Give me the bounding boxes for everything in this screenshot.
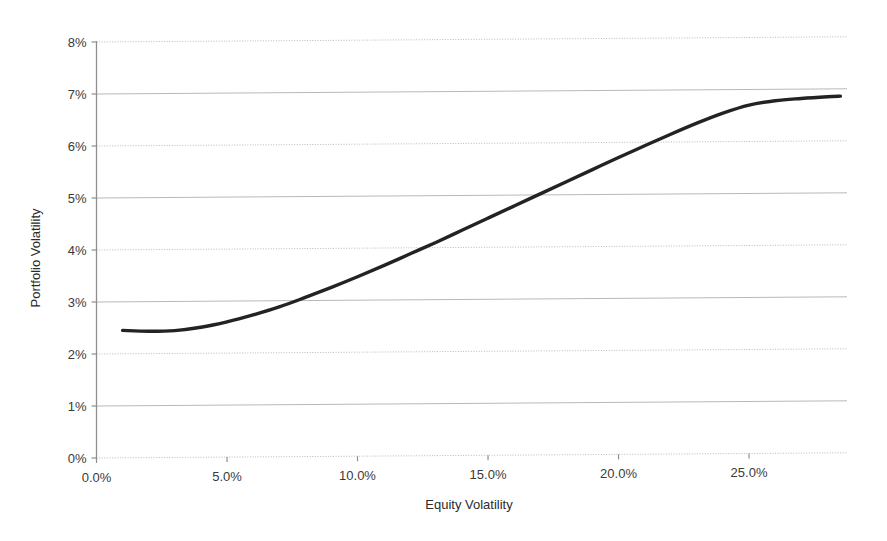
chart-container: 0%1%2%3%4%5%6%7%8% 0.0%5.0%10.0%15.0%20.… <box>0 0 887 541</box>
x-tick-label: 25.0% <box>731 465 768 480</box>
y-tick-label: 0% <box>68 451 87 466</box>
y-tick-label: 5% <box>68 191 87 206</box>
y-tick-label: 6% <box>68 139 87 154</box>
chart-background <box>0 0 887 541</box>
x-tick-label: 20.0% <box>600 466 637 481</box>
x-tick-label: 5.0% <box>212 469 242 484</box>
x-axis-title: Equity Volatility <box>425 497 513 512</box>
y-tick-label: 1% <box>68 399 87 414</box>
line-chart: 0%1%2%3%4%5%6%7%8% 0.0%5.0%10.0%15.0%20.… <box>0 0 887 541</box>
y-tick-label: 8% <box>68 35 87 50</box>
y-tick-label: 4% <box>68 243 87 258</box>
y-tick-label: 2% <box>68 347 87 362</box>
y-axis-title: Portfolio Volatility <box>28 208 43 307</box>
x-tick-label: 0.0% <box>82 470 112 485</box>
y-tick-label: 7% <box>68 87 87 102</box>
y-tick-label: 3% <box>68 295 87 310</box>
x-tick-label: 15.0% <box>470 467 507 482</box>
y-axis-tick-labels: 0%1%2%3%4%5%6%7%8% <box>68 35 87 466</box>
x-tick-label: 10.0% <box>339 468 376 483</box>
